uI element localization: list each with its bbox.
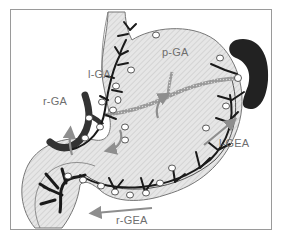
label-rga: r-GA — [43, 96, 67, 107]
arrow-rgea — [95, 208, 152, 213]
label-rgea: r-GEA — [116, 215, 148, 226]
stomach-diagram — [0, 0, 281, 248]
label-pga: p-GA — [162, 47, 188, 58]
label-lga: l-GA — [88, 69, 111, 80]
label-lgea: l-GEA — [219, 138, 249, 149]
